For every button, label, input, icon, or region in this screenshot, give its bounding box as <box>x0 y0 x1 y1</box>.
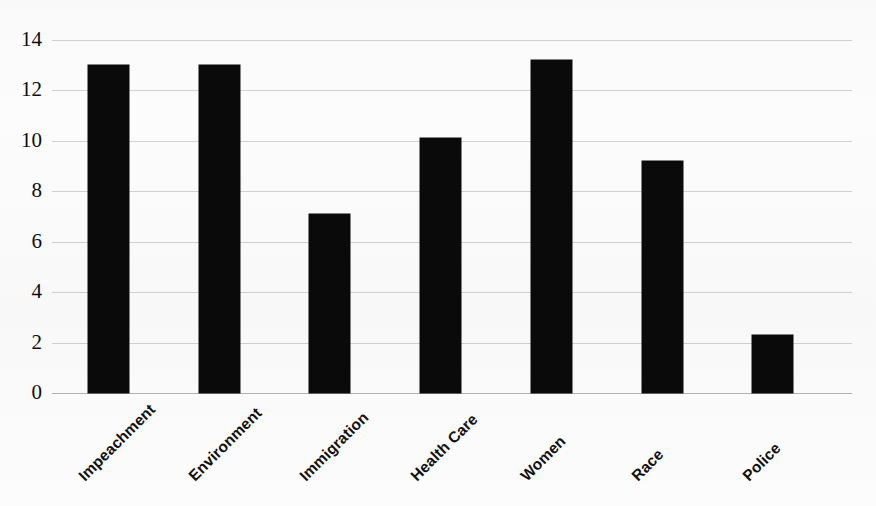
x-tick-label-police: Police <box>739 439 784 484</box>
gridline-12 <box>52 90 852 91</box>
y-tick-label: 12 <box>8 79 42 100</box>
bar-police[interactable] <box>752 335 793 393</box>
y-tick-label: 8 <box>8 180 42 201</box>
x-tick-label-health-care: Health Care <box>407 410 481 484</box>
x-tick-label-immigration: Immigration <box>296 408 372 484</box>
x-tick-label-race: Race <box>628 446 667 485</box>
bar-women[interactable] <box>531 60 572 393</box>
bar-health-care[interactable] <box>420 138 461 393</box>
y-tick-label: 4 <box>8 281 42 302</box>
bar-environment[interactable] <box>199 65 240 393</box>
bar-chart: 02468101214 ImpeachmentEnvironmentImmigr… <box>0 0 876 506</box>
bar-immigration[interactable] <box>309 214 350 393</box>
bar-impeachment[interactable] <box>88 65 129 393</box>
y-tick-label: 0 <box>8 382 42 403</box>
y-tick-label: 2 <box>8 332 42 353</box>
y-tick-label: 14 <box>8 29 42 50</box>
x-tick-label-environment: Environment <box>185 404 265 484</box>
plot-area: 02468101214 ImpeachmentEnvironmentImmigr… <box>0 0 876 506</box>
bar-race[interactable] <box>642 161 683 393</box>
y-tick-label: 6 <box>8 231 42 252</box>
x-tick-label-women: Women <box>517 432 569 484</box>
x-axis-line <box>52 393 852 394</box>
gridline-14 <box>52 40 852 41</box>
x-tick-label-impeachment: Impeachment <box>75 401 159 485</box>
y-tick-label: 10 <box>8 130 42 151</box>
